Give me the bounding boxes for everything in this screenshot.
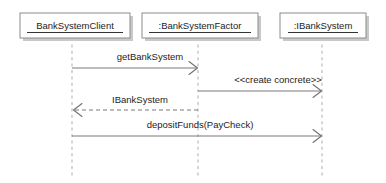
message-return-ibanksystem-label: IBankSystem	[112, 94, 168, 105]
message-create-concrete[interactable]: <<create concrete>>	[198, 74, 322, 98]
participant-ibanksystem-label: :IBankSystem	[294, 20, 353, 31]
message-create-concrete-label: <<create concrete>>	[234, 74, 322, 85]
message-return-ibanksystem[interactable]: IBankSystem	[74, 94, 199, 117]
uml-sequence-diagram: BankSystemClient :BankSystemFactor :IBan…	[0, 0, 386, 183]
participant-client[interactable]: BankSystemClient	[20, 13, 133, 41]
message-deposit-funds[interactable]: depositFunds(PayCheck)	[72, 119, 322, 143]
participant-factory[interactable]: :BankSystemFactor	[142, 13, 261, 41]
participant-factory-label: :BankSystemFactor	[159, 20, 242, 31]
participant-client-label: BankSystemClient	[36, 20, 114, 31]
message-deposit-funds-label: depositFunds(PayCheck)	[147, 119, 254, 130]
diagram-canvas: BankSystemClient :BankSystemFactor :IBan…	[0, 0, 386, 183]
participant-ibanksystem[interactable]: :IBankSystem	[280, 13, 369, 41]
lifeline-group	[72, 38, 322, 178]
message-get-bank-system[interactable]: getBankSystem	[72, 51, 198, 75]
message-get-bank-system-label: getBankSystem	[117, 51, 184, 62]
